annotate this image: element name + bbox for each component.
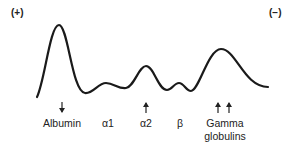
beta-label: β (177, 117, 183, 129)
electrophoresis-diagram: (+) (−) Albumin α1 α2 β Gamma globulins (0, 0, 295, 144)
gamma-label: Gamma (206, 117, 243, 129)
gamma-arrows-up-icon (215, 102, 232, 113)
alpha1-label: α1 (102, 117, 114, 129)
alpha2-arrow-up-icon (143, 102, 149, 113)
globulins-label: globulins (204, 130, 245, 142)
albumin-arrow-down-icon (59, 102, 65, 113)
albumin-label: Albumin (43, 117, 81, 129)
alpha2-label: α2 (140, 117, 152, 129)
